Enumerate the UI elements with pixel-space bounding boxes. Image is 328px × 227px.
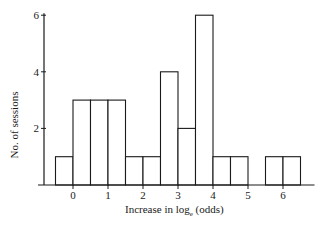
x-tick-label: 2: [140, 189, 146, 201]
x-tick-label: 5: [245, 189, 251, 201]
y-tick-label: 6: [34, 9, 40, 21]
x-axis-label-main: Increase in log: [125, 203, 190, 215]
x-axis-label: Increase in loge (odds): [125, 203, 224, 218]
histogram-bar: [283, 157, 301, 185]
x-axis-label-tail: (odds): [193, 203, 224, 215]
y-tick-label: 2: [34, 122, 40, 134]
x-tick-label: 3: [175, 189, 181, 201]
histogram-bar: [213, 157, 231, 185]
x-tick-label: 1: [105, 189, 111, 201]
histogram-bar: [56, 157, 74, 185]
y-tick-label: 4: [34, 66, 40, 78]
x-tick-label: 0: [70, 189, 76, 201]
histogram-bar: [73, 100, 91, 185]
histogram-bar: [108, 100, 126, 185]
x-tick-label: 4: [210, 189, 216, 201]
histogram-bar: [231, 157, 249, 185]
histogram-bars: [56, 15, 301, 185]
histogram-bar: [266, 157, 284, 185]
histogram-bar: [91, 100, 109, 185]
x-tick-label: 6: [280, 189, 286, 201]
histogram-bar: [161, 72, 179, 185]
histogram-chart: 2460123456: [0, 0, 328, 227]
y-axis-label: No. of sessions: [8, 92, 20, 159]
histogram-bar: [178, 128, 196, 185]
histogram-bar: [196, 15, 214, 185]
histogram-bar: [143, 157, 161, 185]
histogram-bar: [126, 157, 144, 185]
